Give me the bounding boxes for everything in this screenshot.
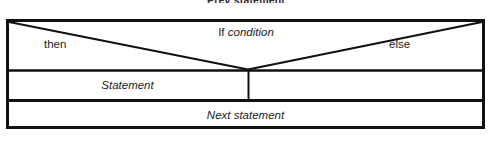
if-then-else-diagram: Prev statement then If condition else St… <box>0 0 492 142</box>
else-label: else <box>389 39 410 51</box>
then-label: then <box>44 39 66 51</box>
next-statement-label: Next statement <box>7 110 484 122</box>
condition-expression: condition <box>228 26 274 38</box>
then-branch-statement-label: Statement <box>7 80 248 92</box>
if-condition-label: If condition <box>0 27 492 39</box>
if-keyword: If <box>218 26 224 38</box>
